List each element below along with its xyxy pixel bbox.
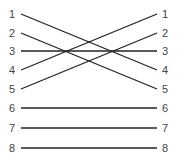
- left-pin-labels: 1 2 3 4 5 6 7 8: [9, 8, 15, 154]
- right-pin-label: 6: [162, 102, 168, 114]
- wires: [21, 14, 157, 148]
- left-pin-label: 7: [9, 122, 15, 134]
- right-pin-label: 7: [162, 122, 168, 134]
- right-pin-label: 4: [162, 64, 168, 76]
- left-pin-label: 4: [9, 64, 15, 76]
- right-pin-label: 5: [162, 83, 168, 95]
- left-pin-label: 1: [9, 8, 15, 20]
- right-pin-label: 8: [162, 142, 168, 154]
- right-pin-label: 3: [162, 45, 168, 57]
- left-pin-label: 5: [9, 83, 15, 95]
- left-pin-label: 6: [9, 102, 15, 114]
- crossover-pinout-diagram: 1 2 3 4 5 6 7 8 1 2 3 4 5 6 7 8: [0, 0, 188, 165]
- right-pin-label: 1: [162, 8, 168, 20]
- left-pin-label: 8: [9, 142, 15, 154]
- left-pin-label: 3: [9, 45, 15, 57]
- left-pin-label: 2: [9, 27, 15, 39]
- right-pin-label: 2: [162, 27, 168, 39]
- right-pin-labels: 1 2 3 4 5 6 7 8: [162, 8, 168, 154]
